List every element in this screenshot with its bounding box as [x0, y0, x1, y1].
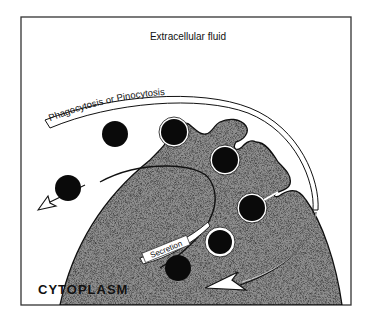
cytoplasm-label: CYTOPLASM [38, 282, 128, 297]
particle-outside [102, 121, 128, 147]
particle-in-vesicle [205, 227, 235, 257]
particle-engulfing [210, 145, 240, 175]
particle-inside [165, 255, 191, 281]
particle-engulfing [159, 117, 189, 147]
extracellular-fluid-label: Extracellular fluid [150, 31, 226, 42]
particle-outside [55, 175, 81, 201]
endocytosis-exocytosis-diagram: Extracellular fluid Secretion [0, 0, 365, 323]
